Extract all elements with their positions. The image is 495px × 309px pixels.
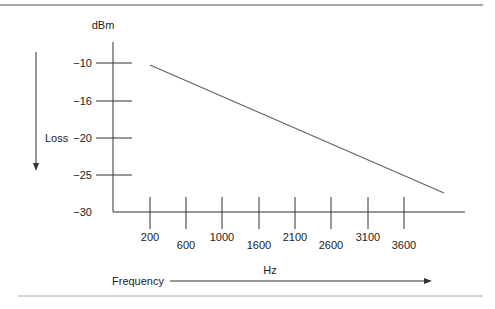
x-tick-label: 2600: [319, 239, 343, 251]
x-tick-label: 200: [141, 231, 159, 243]
x-tick-label: 1600: [247, 239, 271, 251]
frequency-arrow-head: [424, 278, 432, 284]
y-tick-label: −30: [73, 206, 92, 218]
y-unit-label: dBm: [92, 19, 115, 31]
x-axis-label: Frequency: [112, 275, 164, 287]
loss-arrow-head: [33, 163, 39, 171]
x-tick-label: 2100: [283, 231, 307, 243]
y-tick-label: −25: [73, 169, 92, 181]
y-tick-label: −20: [73, 132, 92, 144]
y-tick-label: −16: [73, 95, 92, 107]
loss-line: [150, 65, 444, 193]
x-tick-label: 3100: [356, 231, 380, 243]
y-ticks: [96, 63, 132, 175]
x-unit-label: Hz: [263, 264, 276, 276]
y-axis-label: Loss: [45, 132, 69, 144]
loss-frequency-chart: dBm Loss −10 −16 −20 −25 −30: [0, 0, 495, 309]
x-ticks: [150, 197, 404, 229]
x-tick-label: 600: [177, 239, 195, 251]
y-tick-label: −10: [73, 57, 92, 69]
x-tick-label: 1000: [210, 231, 234, 243]
x-tick-label: 3600: [392, 239, 416, 251]
